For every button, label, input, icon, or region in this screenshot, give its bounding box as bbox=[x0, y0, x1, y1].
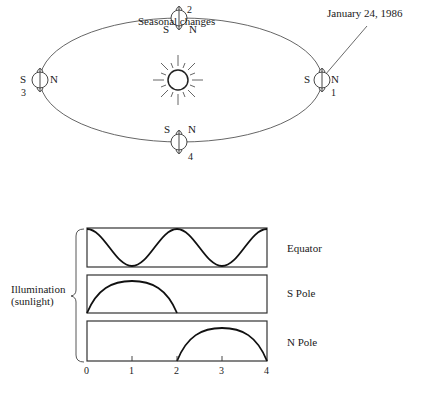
position-3-number: 3 bbox=[21, 88, 26, 98]
illumination-brace bbox=[71, 229, 84, 362]
x-tick-4: 4 bbox=[264, 366, 269, 376]
illumination-label: Illumination bbox=[11, 284, 65, 295]
earth-icon-position-4 bbox=[171, 130, 187, 154]
x-tick-0: 0 bbox=[84, 366, 89, 376]
x-tick-3: 3 bbox=[219, 366, 224, 376]
position-4-south-label: S bbox=[164, 124, 170, 135]
equator-curve bbox=[87, 229, 267, 266]
n-pole-panel bbox=[87, 321, 267, 361]
annotation-leader-line bbox=[325, 26, 367, 75]
seasonal-diagram bbox=[0, 0, 422, 393]
date-annotation: January 24, 1986 bbox=[327, 8, 402, 19]
x-axis-ticks bbox=[132, 356, 222, 361]
x-tick-2: 2 bbox=[174, 366, 179, 376]
sunlight-label: (sunlight) bbox=[11, 296, 54, 307]
position-4-north-label: N bbox=[188, 124, 196, 135]
equator-panel bbox=[87, 228, 267, 267]
position-2-north-label: N bbox=[189, 24, 197, 35]
position-2-south-label: S bbox=[163, 24, 169, 35]
equator-label: Equator bbox=[287, 243, 322, 254]
diagram-title: Seasonal changes bbox=[138, 16, 215, 27]
s-pole-curve bbox=[87, 281, 177, 313]
position-3-south-label: S bbox=[20, 74, 26, 85]
position-4-number: 4 bbox=[188, 152, 193, 162]
sun-icon bbox=[153, 55, 203, 105]
position-3-north-label: N bbox=[50, 74, 58, 85]
x-tick-1: 1 bbox=[129, 366, 134, 376]
s-pole-panel bbox=[87, 275, 267, 313]
position-1-south-label: S bbox=[304, 74, 310, 85]
position-1-north-label: N bbox=[331, 74, 339, 85]
s-pole-label: S Pole bbox=[287, 288, 315, 299]
n-pole-label: N Pole bbox=[287, 337, 317, 348]
position-1-number: 1 bbox=[331, 88, 336, 98]
position-2-number: 2 bbox=[187, 5, 192, 15]
earth-icon-position-3 bbox=[32, 68, 48, 92]
